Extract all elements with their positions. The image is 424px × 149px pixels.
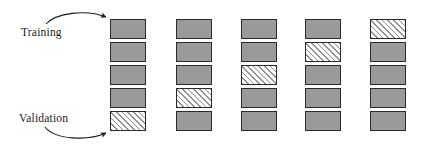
fold-1-cell-2 bbox=[110, 42, 146, 62]
fold-column-2 bbox=[176, 19, 212, 134]
fold-2-cell-3 bbox=[176, 65, 212, 85]
fold-5-cell-4 bbox=[370, 88, 406, 108]
fold-2-cell-5 bbox=[176, 111, 212, 131]
fold-2-cell-1 bbox=[176, 19, 212, 39]
arrow-layer bbox=[0, 0, 424, 149]
fold-4-cell-4 bbox=[305, 88, 341, 108]
fold-3-cell-3 bbox=[241, 65, 277, 85]
fold-4-cell-1 bbox=[305, 19, 341, 39]
fold-2-cell-4 bbox=[176, 88, 212, 108]
fold-1-cell-5 bbox=[110, 111, 146, 131]
fold-1-cell-4 bbox=[110, 88, 146, 108]
fold-4-cell-5 bbox=[305, 111, 341, 131]
validation-arrow bbox=[45, 127, 106, 138]
fold-3-cell-1 bbox=[241, 19, 277, 39]
fold-5-cell-2 bbox=[370, 42, 406, 62]
fold-column-3 bbox=[241, 19, 277, 134]
fold-column-5 bbox=[370, 19, 406, 134]
fold-column-1 bbox=[110, 19, 146, 134]
fold-5-cell-3 bbox=[370, 65, 406, 85]
fold-column-4 bbox=[305, 19, 341, 134]
fold-4-cell-2 bbox=[305, 42, 341, 62]
fold-5-cell-1 bbox=[370, 19, 406, 39]
fold-3-cell-2 bbox=[241, 42, 277, 62]
validation-label: Validation bbox=[19, 112, 68, 124]
fold-3-cell-5 bbox=[241, 111, 277, 131]
training-label: Training bbox=[21, 26, 62, 38]
fold-2-cell-2 bbox=[176, 42, 212, 62]
fold-1-cell-3 bbox=[110, 65, 146, 85]
fold-4-cell-3 bbox=[305, 65, 341, 85]
fold-1-cell-1 bbox=[110, 19, 146, 39]
fold-5-cell-5 bbox=[370, 111, 406, 131]
cross-validation-figure: Training Validation bbox=[0, 0, 424, 149]
training-arrow bbox=[46, 13, 106, 24]
fold-3-cell-4 bbox=[241, 88, 277, 108]
